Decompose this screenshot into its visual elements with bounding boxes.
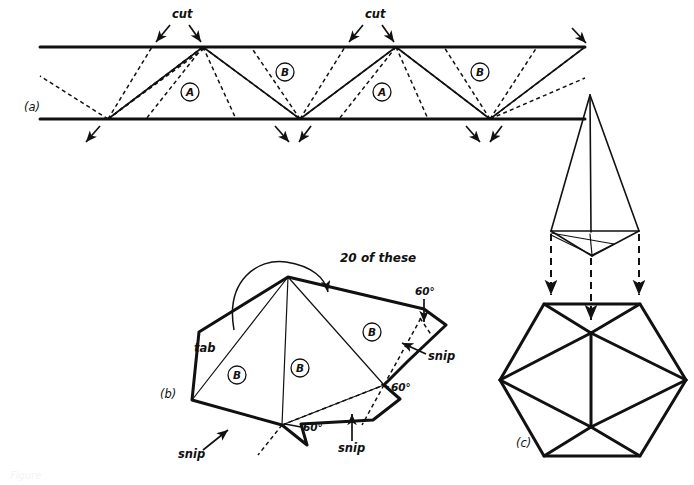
strip-bottom-arrows bbox=[86, 126, 502, 142]
rotation-arc bbox=[232, 262, 328, 330]
bottom-arrow-3 bbox=[299, 126, 311, 142]
panel-a-label: (a) bbox=[24, 100, 40, 114]
fan-crease-1 bbox=[199, 277, 288, 332]
fan-inner-creases bbox=[192, 277, 424, 425]
face-label-text: B bbox=[233, 369, 241, 381]
face-label-text: B bbox=[476, 66, 484, 78]
panel-b-face-label-3: B bbox=[363, 323, 381, 341]
fold-dash-a1 bbox=[40, 76, 108, 119]
face-label-text: A bbox=[377, 86, 386, 98]
panel-b-face-label-2: B bbox=[291, 359, 309, 377]
cut-arrow-2a bbox=[349, 25, 363, 42]
icosahedron-bottom-chevron bbox=[544, 427, 640, 456]
pyramid-inner-1 bbox=[551, 233, 614, 244]
trim-dash-3 bbox=[384, 318, 421, 385]
fan-crease-5 bbox=[288, 277, 424, 309]
panel-b-face-label-1: B bbox=[228, 366, 246, 384]
trim-dash-5 bbox=[258, 425, 282, 455]
pyramid-inner-2 bbox=[551, 235, 592, 255]
panel-b-label: (b) bbox=[160, 387, 176, 401]
bottom-arrow-5 bbox=[490, 126, 502, 142]
figure-caption: Figure bbox=[10, 470, 41, 481]
fan-crease-3 bbox=[282, 277, 288, 425]
cut-arrow-3 bbox=[572, 28, 586, 43]
pyramid-inner-4 bbox=[590, 234, 592, 255]
fold-dash-b1 bbox=[251, 47, 300, 119]
cut-arrow-2b bbox=[382, 25, 394, 42]
pyramid-axis bbox=[590, 95, 591, 232]
figure-page: cut cut A bbox=[0, 0, 694, 485]
fold-dash-b2 bbox=[300, 47, 345, 119]
cut-arrow-1a bbox=[156, 25, 170, 42]
face-label-b2: B bbox=[471, 63, 489, 81]
angle-label-3: 60° bbox=[303, 421, 323, 433]
trim-dash-7 bbox=[420, 318, 432, 336]
pyramid-edge-br bbox=[592, 231, 639, 256]
fold-dash-a8 bbox=[203, 47, 300, 119]
snip-label-1: snip bbox=[428, 349, 455, 363]
snip-label-2: snip bbox=[338, 441, 365, 455]
projection-arrows bbox=[551, 234, 639, 320]
panel-b-group: 20 of these bbox=[160, 251, 455, 461]
panel-c-group: (c) bbox=[500, 95, 686, 456]
icosahedron-upper-belt bbox=[500, 333, 686, 380]
snip-arrow-3 bbox=[203, 430, 228, 450]
angle-leader-3 bbox=[285, 424, 301, 427]
fold-dash-d2 bbox=[490, 47, 537, 119]
fan-outline bbox=[192, 277, 446, 445]
angle-label-1: 60° bbox=[415, 285, 435, 297]
face-label-text: B bbox=[296, 362, 304, 374]
cut-annotation-2: cut bbox=[349, 7, 394, 42]
face-label-b1: B bbox=[276, 63, 294, 81]
fold-dash-a2 bbox=[108, 47, 152, 119]
cut-arrow-1b bbox=[189, 25, 201, 42]
tab-label: tab bbox=[194, 341, 216, 355]
face-label-text: B bbox=[281, 66, 289, 78]
icosahedron-construction-figure: cut cut A bbox=[0, 0, 694, 485]
icosahedron-outline bbox=[500, 304, 686, 456]
cut-label-1: cut bbox=[172, 7, 193, 21]
cut-annotation-1: cut bbox=[156, 7, 201, 42]
strip-solid-creases bbox=[108, 47, 585, 119]
pyramid-edge-right bbox=[590, 95, 639, 231]
face-label-a1: A bbox=[181, 83, 199, 101]
panel-c-label: (c) bbox=[516, 436, 531, 450]
snip-label-3: snip bbox=[178, 447, 205, 461]
fan-crease-2 bbox=[192, 277, 288, 400]
bottom-arrow-1 bbox=[86, 126, 100, 142]
fold-dash-d1 bbox=[444, 47, 490, 119]
strip-dashed-creases bbox=[40, 47, 585, 119]
face-label-a2: A bbox=[373, 83, 391, 101]
fold-dash-a7 bbox=[203, 47, 236, 119]
face-label-text: A bbox=[185, 86, 194, 98]
icosahedron bbox=[500, 304, 686, 456]
angle-label-2: 60° bbox=[391, 381, 411, 393]
twenty-of-these-note: 20 of these bbox=[340, 251, 416, 265]
face-label-text: B bbox=[368, 326, 376, 338]
bottom-arrow-4 bbox=[466, 126, 480, 142]
fold-dash-c2 bbox=[396, 47, 428, 119]
icosahedron-lower-belt bbox=[500, 380, 686, 427]
fan-rim-edges bbox=[192, 385, 384, 425]
bottom-arrow-2 bbox=[275, 126, 289, 142]
pyramid-edge-left bbox=[551, 95, 590, 231]
panel-a-group: cut cut A bbox=[24, 7, 586, 142]
cut-label-2: cut bbox=[365, 7, 386, 21]
pyramid-inner-3 bbox=[592, 244, 614, 255]
snip-annotation-3: snip bbox=[178, 430, 228, 461]
fold-dash-d3 bbox=[490, 47, 585, 119]
